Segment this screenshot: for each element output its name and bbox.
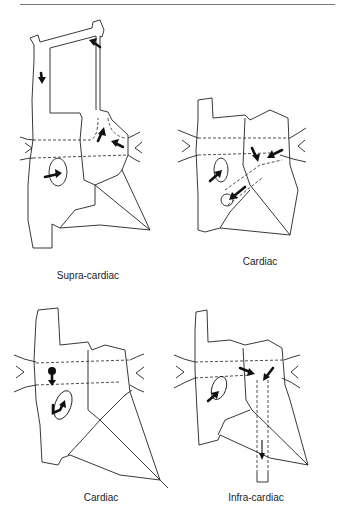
heart-outline	[28, 20, 150, 248]
coronary-sinus-dashed	[225, 160, 282, 190]
atrial-dashed-lower	[33, 155, 128, 158]
descending-vein-stub	[257, 472, 268, 482]
ventricle-septum	[243, 118, 290, 235]
panel-cardiac-right-atrium	[14, 308, 168, 488]
panel-supra-cardiac	[20, 20, 150, 248]
atrial-dashed-upper	[33, 118, 98, 140]
ventricle-septum	[243, 348, 308, 465]
heart-outline	[196, 98, 298, 235]
atrial-dashed-upper	[195, 360, 284, 362]
panel-label-supra-cardiac: Supra-cardiac	[28, 270, 148, 281]
panel-label-cardiac-right-atrium: Cardiac	[41, 492, 161, 503]
flow-arrow	[234, 187, 245, 196]
atrial-dashed-upper	[36, 360, 130, 363]
atrial-dashed-lower	[36, 382, 120, 385]
panel-label-cardiac-coronary-sinus: Cardiac	[200, 256, 320, 267]
panel-infra-cardiac	[174, 310, 308, 482]
ventricle-septum	[80, 118, 150, 230]
foramen-ovale	[214, 158, 228, 182]
heart-outline	[34, 308, 160, 480]
panel-cardiac-coronary-sinus	[178, 98, 306, 235]
panel-label-infra-cardiac: Infra-cardiac	[196, 492, 316, 503]
svc-vertical-vein	[50, 48, 82, 118]
